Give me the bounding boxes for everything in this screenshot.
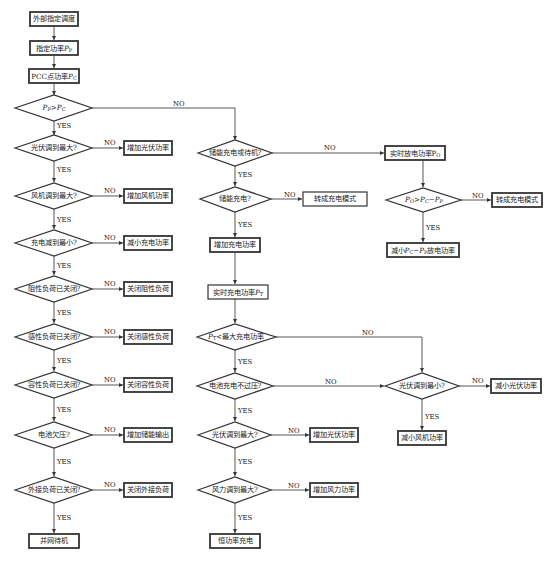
no-label: NO	[104, 187, 116, 195]
decision-resistive-load: 阻性负荷已关闭?	[15, 276, 92, 302]
pcc-power-box: PCC点功率PC	[29, 69, 79, 83]
decision-wind-max: 风机调到最大?	[15, 183, 92, 209]
yes-label: YES	[56, 309, 71, 317]
action-close-external: 关闭外接负荷	[124, 483, 172, 497]
set-power-box: 指定功率PP	[30, 41, 78, 55]
decision-capacitive-load: 容性负荷已关闭?	[15, 372, 92, 398]
yes-label: YES	[425, 224, 440, 232]
end-grid-standby: 并网待机	[29, 534, 79, 548]
svg-text:容性负荷已关闭?: 容性负荷已关闭?	[28, 380, 81, 389]
svg-text:光伏调到最大?: 光伏调到最大?	[31, 143, 77, 152]
svg-text:关闭阻性负荷: 关闭阻性负荷	[127, 284, 169, 293]
realtime-discharge-power-box: 实时放电功率PO	[385, 146, 445, 160]
action-switch-to-charge: 转成充电模式	[303, 192, 367, 206]
svg-text:减小光伏功率: 减小光伏功率	[495, 381, 537, 390]
svg-text:电池充电不过压?: 电池充电不过压?	[209, 381, 262, 390]
svg-text:恒功率充电: 恒功率充电	[218, 536, 253, 545]
yes-label: YES	[56, 458, 71, 466]
yes-label: YES	[56, 122, 71, 130]
svg-text:光伏调到最大?: 光伏调到最大?	[212, 430, 258, 439]
yes-label: YES	[237, 458, 252, 466]
decision-pp-gt-pc: PP>PC	[15, 95, 92, 121]
no-label: NO	[472, 377, 484, 385]
svg-text:实时充电功率PT: 实时充电功率PT	[213, 287, 264, 296]
svg-text:转成充电模式: 转成充电模式	[496, 195, 538, 204]
action-reduce-charge: 减小充电功率	[124, 236, 172, 250]
svg-text:关闭外接负荷: 关闭外接负荷	[127, 485, 169, 494]
svg-text:实时放电功率PO: 实时放电功率PO	[390, 148, 441, 157]
decision-pv-max-mid: 光伏调到最大?	[198, 422, 271, 448]
connector-no	[276, 337, 422, 372]
action-close-capacitive: 关闭容性负荷	[124, 378, 172, 392]
svg-text:增加光伏功率: 增加光伏功率	[313, 430, 355, 439]
decision-wind-max-mid: 风力调到最大?	[198, 477, 271, 503]
no-label: NO	[104, 481, 116, 489]
no-label: NO	[362, 329, 374, 337]
yes-label: YES	[237, 407, 252, 415]
decision-max-charge-power: PT<最大充电功率	[197, 324, 276, 350]
no-label: NO	[104, 234, 116, 242]
yes-label: YES	[56, 262, 71, 270]
no-label: NO	[324, 144, 336, 152]
svg-text:减小PC−PP放电功率: 减小PC−PP放电功率	[391, 245, 456, 254]
svg-text:阻性负荷已关闭?: 阻性负荷已关闭?	[28, 284, 81, 293]
svg-text:关闭容性负荷: 关闭容性负荷	[127, 380, 169, 389]
yes-label: YES	[237, 171, 252, 179]
yes-label: YES	[237, 358, 252, 366]
action-increase-charge: 增加充电功率	[210, 238, 260, 252]
action-reduce-wind: 减小风机功率	[398, 431, 446, 445]
no-label: NO	[104, 139, 116, 147]
action-reduce-pv: 减小光伏功率	[491, 379, 541, 393]
svg-text:减小风机功率: 减小风机功率	[401, 433, 443, 442]
yes-label: YES	[237, 514, 252, 522]
decision-battery-undervoltage: 电池欠压?	[15, 422, 92, 448]
decision-battery-no-overvoltage: 电池充电不过压?	[197, 373, 273, 399]
no-label: NO	[104, 376, 116, 384]
svg-text:增加储能输出: 增加储能输出	[127, 430, 169, 439]
svg-text:光伏调到最小?: 光伏调到最小?	[399, 381, 445, 390]
svg-text:外部指定调度: 外部指定调度	[33, 14, 75, 23]
yes-label: YES	[56, 357, 71, 365]
yes-label: YES	[56, 514, 71, 522]
decision-pv-min: 光伏调到最小?	[385, 373, 459, 399]
decision-storage-charging: 储能充电?	[200, 187, 271, 212]
action-switch-to-charge-right: 转成充电模式	[492, 193, 542, 207]
action-increase-wind: 增加风机功率	[124, 189, 172, 203]
yes-label: YES	[56, 216, 71, 224]
start-box: 外部指定调度	[30, 12, 78, 26]
action-reduce-discharge: 减小PC−PP放电功率	[387, 243, 459, 257]
no-label: NO	[288, 427, 300, 435]
connector-no	[92, 108, 235, 140]
no-label: NO	[104, 328, 116, 336]
action-increase-storage: 增加储能输出	[124, 428, 172, 442]
action-close-resistive: 关闭阻性负荷	[124, 282, 172, 296]
action-increase-pv-mid: 增加光伏功率	[310, 428, 358, 442]
svg-text:增加充电功率: 增加充电功率	[214, 240, 256, 249]
svg-text:增加风力功率: 增加风力功率	[313, 485, 355, 494]
no-label: NO	[325, 378, 337, 386]
action-close-inductive: 关闭感性负荷	[124, 330, 172, 344]
svg-text:风力调到最大?: 风力调到最大?	[212, 485, 258, 494]
decision-pv-max: 光伏调到最大?	[15, 135, 92, 161]
svg-text:储能充电或待机?: 储能充电或待机?	[209, 148, 262, 157]
yes-label: YES	[237, 221, 252, 229]
yes-label: YES	[424, 413, 439, 421]
svg-text:充电减到最小?: 充电减到最小?	[31, 238, 77, 247]
end-constant-power-charge: 恒功率充电	[210, 534, 260, 548]
svg-text:储能充电?: 储能充电?	[219, 194, 251, 203]
decision-storage-charge-or-standby: 储能充电或待机?	[198, 140, 272, 166]
svg-text:感性负荷已关闭?: 感性负荷已关闭?	[28, 332, 81, 341]
svg-text:关闭感性负荷: 关闭感性负荷	[127, 332, 169, 341]
no-label: NO	[173, 100, 185, 108]
svg-text:并网待机: 并网待机	[40, 536, 69, 545]
decision-po-gt-pc-minus-pp: PO>PC−PP	[386, 188, 461, 212]
decision-inductive-load: 感性负荷已关闭?	[15, 324, 92, 350]
no-label: NO	[472, 192, 484, 200]
action-increase-pv: 增加光伏功率	[124, 141, 172, 155]
action-increase-wind-mid: 增加风力功率	[310, 483, 358, 497]
flowchart: 外部指定调度 指定功率PP PCC点功率PC PP>PC YES NO 光伏调到…	[0, 0, 554, 563]
no-label: NO	[288, 482, 300, 490]
realtime-charge-power-box: 实时充电功率PT	[208, 285, 268, 299]
svg-text:减小充电功率: 减小充电功率	[127, 238, 169, 247]
svg-text:风机调到最大?: 风机调到最大?	[31, 191, 77, 200]
